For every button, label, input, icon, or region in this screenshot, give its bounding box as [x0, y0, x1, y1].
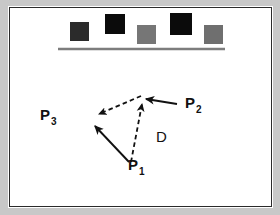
edge-p1-to-upper-left: [95, 126, 129, 162]
label-p3: P 3: [40, 106, 57, 127]
obstacle-square-1: [70, 22, 89, 41]
point-label-group: P 3 P 2 P 1 D: [40, 94, 202, 177]
label-p2: P 2: [185, 94, 202, 115]
obstacle-square-4: [170, 13, 192, 35]
edge-vertex-to-left: [99, 96, 141, 114]
obstacle-square-5: [204, 25, 223, 44]
label-p1: P 1: [128, 156, 145, 177]
label-p3-base: P: [40, 106, 50, 123]
obstacle-square-2: [105, 14, 125, 34]
label-p2-base: P: [185, 94, 195, 111]
obstacle-square-3: [137, 25, 156, 44]
obstacle-square-group: [70, 13, 223, 44]
edge-p2-to-vertex: [146, 99, 177, 104]
label-p1-subscript: 1: [139, 166, 145, 177]
label-p1-base: P: [128, 156, 138, 173]
diagram-canvas: P 3 P 2 P 1 D: [10, 8, 271, 206]
figure-panel: P 3 P 2 P 1 D: [9, 7, 272, 207]
label-p3-subscript: 3: [51, 116, 57, 127]
edge-p1-to-vertex: [131, 104, 142, 162]
label-p2-subscript: 2: [196, 104, 202, 115]
figure-root: P 3 P 2 P 1 D: [0, 0, 280, 215]
label-d: D: [156, 128, 167, 145]
